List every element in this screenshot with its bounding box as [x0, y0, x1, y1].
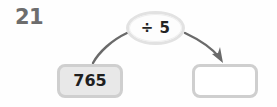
operation-bubble-inner: ÷ 5 — [129, 14, 182, 42]
arrowhead-icon — [212, 47, 223, 63]
input-value-box: 765 — [57, 64, 123, 98]
input-value-text: 765 — [73, 73, 106, 89]
curve-input-to-operation — [93, 33, 127, 63]
worksheet-problem: 21 ÷ 5 765 — [0, 0, 277, 107]
answer-input-box[interactable] — [192, 64, 258, 98]
operation-bubble: ÷ 5 — [126, 11, 185, 45]
division-sign-icon: ÷ 5 — [141, 21, 171, 36]
